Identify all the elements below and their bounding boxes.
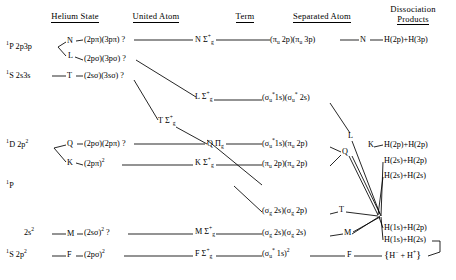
letter-N: N	[67, 37, 73, 45]
he-1S-2p2: 1S 2p2	[6, 251, 27, 259]
sa-sigu1s-piu2p: (σu*1s)(πu 2p)	[262, 140, 307, 148]
dp-H1s-H2p: H(1s)+H(2p)	[384, 224, 427, 232]
term-F: F Σ+g	[195, 250, 212, 258]
correlation-diagram: Helium State United Atom Term Separated …	[0, 0, 456, 280]
letter-M: M	[67, 230, 74, 238]
sa-sigg2s-sigg2p: (σg 2s)(σg 2p)	[262, 207, 307, 215]
header-united-atom: United Atom	[100, 12, 212, 22]
term-L: L Σ+g	[195, 93, 212, 101]
right-letter-L: L	[348, 132, 353, 140]
letter-T: T	[67, 72, 72, 80]
ua-2ssig-3ssig: (2sσ)(3sσ) ?	[84, 72, 124, 80]
letter-K: K	[67, 159, 73, 167]
dp-H2p-H2p: H(2p)+H(2p)	[384, 141, 428, 149]
dp-H2s-H2s: H(2s)+H(2s)	[384, 172, 426, 180]
header-dissociation-line1: Dissociation	[390, 4, 435, 14]
ua-2psig-sq: (2pσ)2	[84, 251, 105, 259]
he-1S-2s3s: 1S 2s3s	[6, 72, 30, 80]
right-letter-F: F	[347, 251, 352, 259]
sa-sigu1s-sigu2s: (σu*1s)(σu* 2s)	[262, 94, 310, 102]
header-dissociation-products: Dissociation Products	[370, 5, 456, 25]
ua-2psig-2ppi: (2pσ)(2pπ) ?	[84, 140, 126, 148]
he-1D-2p2: 1D 2p2	[6, 141, 28, 149]
header-dissociation-line2: Products	[397, 14, 429, 26]
letter-L: L	[68, 52, 73, 60]
sa-sigg2s-sigg2s: (σg 2s)(σg 2s)	[262, 229, 306, 237]
term-K: K Σ+g	[195, 159, 214, 167]
sa-sigu1s-sq: (σu* 1s)2	[262, 250, 290, 258]
sa-piu2p-piu3p: (πu 2p)(πu 3p)	[270, 36, 315, 44]
right-letter-N: N	[360, 36, 366, 44]
dp-H2s-H2p: H(2s)+H(2p)	[384, 157, 427, 165]
dp-Hminus-Hplus: {H− + H+}	[384, 249, 421, 260]
header-separated-atom: Separated Atom	[262, 12, 382, 22]
term-M: M Σ+g	[195, 228, 215, 236]
sa-piu2p-piu2p: (πu 2p)(πu 2p)	[262, 160, 307, 168]
term-T: T Σ+g	[158, 117, 176, 125]
right-letter-Q: Q	[342, 148, 348, 156]
he-1P: 1P	[6, 182, 14, 190]
he-1P-2p3p: 1P 2p3p	[6, 43, 32, 51]
ua-2psig-3psig: (2pσ)(3pσ) ?	[84, 55, 126, 63]
ua-2ppi-sq: (2pπ)2	[84, 160, 105, 168]
term-N: N Σ+g	[195, 36, 214, 44]
right-letter-K: K	[368, 141, 374, 149]
he-2s2: 2s2	[24, 229, 34, 237]
letter-Q: Q	[67, 140, 73, 148]
dp-H2p-H3p: H(2p)+H(3p)	[384, 36, 428, 44]
right-letter-T: T	[339, 206, 344, 214]
dp-H1s-H2s: H(1s)+H(2s)	[384, 236, 426, 244]
term-Q: Q Πg	[207, 140, 224, 148]
right-letter-M: M	[344, 229, 351, 237]
letter-F: F	[67, 251, 72, 259]
ua-2ppi-3ppi: (2pπ)(3pπ) ?	[84, 36, 125, 44]
ua-2ssig-sq: (2sσ)2 ?	[84, 229, 110, 237]
